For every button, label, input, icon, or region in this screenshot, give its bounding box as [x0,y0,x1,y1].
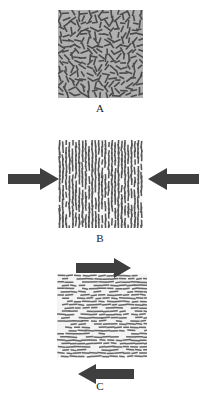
panel-a: A [0,0,205,122]
panel-label-b: B [70,232,130,244]
compression-arrow-left-icon [8,166,60,192]
vertical-dash-texture [58,140,143,228]
specimen-horizontal-orientation [57,274,147,358]
random-dash-texture [58,10,143,98]
shear-arrow-top-icon [76,258,132,278]
multi-panel-figure: A B C [0,0,205,404]
panel-label-a: A [70,102,130,114]
shear-arrow-bottom-icon [76,364,134,384]
compression-arrow-right-icon [143,166,199,192]
specimen-random-orientation [58,10,143,98]
horizontal-dash-texture [57,274,147,358]
specimen-vertical-orientation [58,140,143,228]
